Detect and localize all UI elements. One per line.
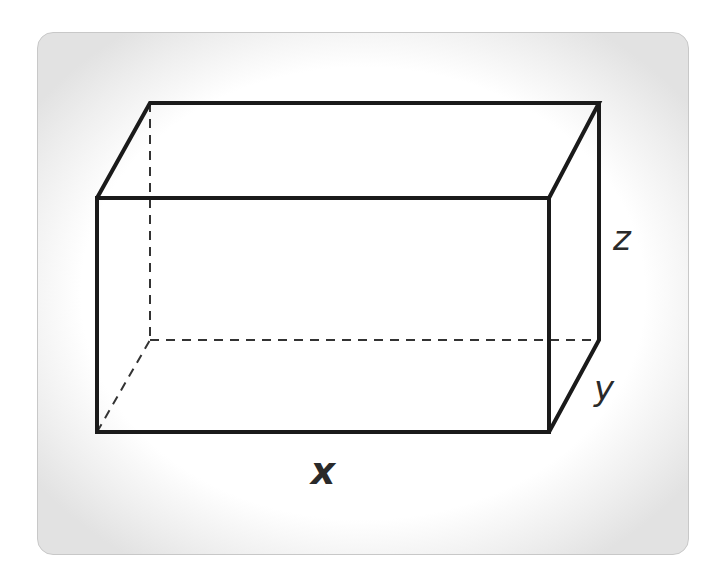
visible-edges <box>97 103 599 432</box>
rectangular-prism-diagram: x y z <box>0 0 725 579</box>
label-x: x <box>309 449 337 493</box>
front-face <box>97 198 549 432</box>
top-face-edges <box>97 103 599 198</box>
label-y: y <box>593 368 615 408</box>
hidden-edges <box>97 103 599 432</box>
label-z: z <box>612 218 632 258</box>
hidden-edge-bottom-left-depth <box>97 340 150 432</box>
